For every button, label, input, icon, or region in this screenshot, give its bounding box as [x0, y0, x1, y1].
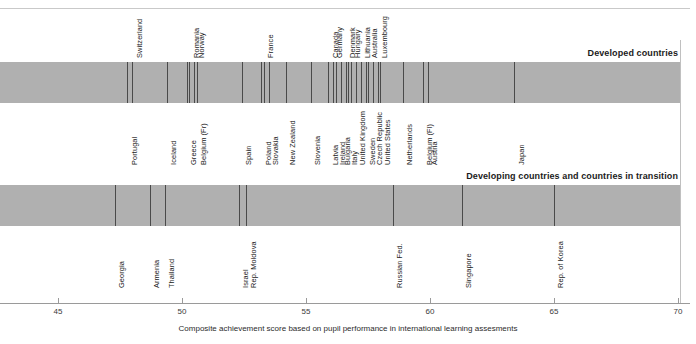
x-tick-mark — [58, 298, 59, 303]
country-tick-line — [269, 62, 270, 103]
country-tick-line — [264, 62, 265, 103]
country-tick-line — [423, 62, 424, 103]
country-label: United States — [384, 119, 391, 165]
country-label: Spain — [245, 146, 252, 165]
country-tick-line — [239, 185, 240, 226]
x-tick-mark — [306, 298, 307, 303]
country-tick-line — [167, 62, 168, 103]
country-tick-line — [187, 62, 188, 103]
country-tick-line — [261, 62, 262, 103]
country-tick-line — [194, 62, 195, 103]
country-tick-line — [361, 62, 362, 103]
country-tick-line — [351, 62, 352, 103]
country-tick-line — [393, 185, 394, 226]
country-tick-line — [197, 62, 198, 103]
country-tick-line — [333, 62, 334, 103]
country-label: Netherlands — [406, 124, 413, 165]
country-label: Norway — [198, 32, 205, 58]
country-label: Slovakia — [272, 136, 279, 165]
country-tick-line — [373, 62, 374, 103]
chart-figure: Developed countries Developing countries… — [0, 0, 696, 344]
country-label: Slovenia — [314, 136, 321, 165]
top-rule — [0, 8, 690, 9]
x-tick-label: 50 — [178, 307, 187, 316]
country-label: Rep. of Korea — [557, 241, 564, 288]
country-label: New Zealand — [289, 120, 296, 165]
country-label: Germany — [336, 27, 343, 58]
x-tick-label: 60 — [426, 307, 435, 316]
country-tick-line — [189, 62, 190, 103]
x-tick-label: 65 — [550, 307, 559, 316]
country-tick-line — [356, 62, 357, 103]
country-tick-line — [150, 185, 151, 226]
country-tick-line — [132, 62, 133, 103]
country-tick-line — [127, 62, 128, 103]
country-label: Armenia — [153, 260, 160, 288]
x-tick-label: 45 — [54, 307, 63, 316]
country-tick-line — [115, 185, 116, 226]
country-label: Belgium (Fr) — [200, 123, 207, 165]
country-label: Japan — [518, 144, 525, 165]
x-tick-label: 70 — [674, 307, 683, 316]
x-tick-label: 55 — [302, 307, 311, 316]
x-tick-mark — [430, 298, 431, 303]
x-tick-mark — [182, 298, 183, 303]
country-label: Switzerland — [136, 19, 143, 58]
country-tick-line — [336, 62, 337, 103]
country-label: Hungary — [354, 29, 361, 58]
country-tick-line — [366, 62, 367, 103]
country-label: Greece — [190, 140, 197, 165]
country-label: Thailand — [168, 259, 175, 288]
country-label: United Kingdom — [359, 111, 366, 165]
x-tick-mark — [554, 298, 555, 303]
country-tick-line — [380, 62, 381, 103]
country-tick-line — [341, 62, 342, 103]
country-label: Portugal — [131, 137, 138, 165]
x-axis-caption: Composite achievement score based on pup… — [0, 324, 696, 333]
country-label: Rep. Moldova — [250, 241, 257, 288]
country-label: Georgia — [118, 261, 125, 288]
country-tick-line — [165, 185, 166, 226]
country-tick-line — [428, 62, 429, 103]
country-tick-line — [514, 62, 515, 103]
country-label: Iceland — [170, 140, 177, 165]
country-tick-line — [403, 62, 404, 103]
country-tick-line — [346, 62, 347, 103]
country-tick-line — [328, 62, 329, 103]
country-tick-line — [378, 62, 379, 103]
country-tick-line — [242, 62, 243, 103]
country-tick-line — [246, 185, 247, 226]
country-label: Luxembourg — [381, 16, 388, 58]
country-label: Singapore — [465, 253, 472, 288]
x-axis-line — [0, 303, 690, 304]
country-tick-line — [368, 62, 369, 103]
country-label: Austria — [431, 141, 438, 165]
country-tick-line — [554, 185, 555, 226]
country-tick-line — [348, 62, 349, 103]
country-label: Australia — [371, 28, 378, 58]
band-label-developing: Developing countries and countries in tr… — [466, 171, 678, 181]
country-tick-line — [286, 62, 287, 103]
country-label: Russian Fed. — [396, 243, 403, 288]
country-tick-line — [311, 62, 312, 103]
x-tick-mark — [678, 298, 679, 303]
country-tick-line — [462, 185, 463, 226]
right-frame-line — [680, 40, 681, 303]
country-label: France — [267, 34, 274, 58]
band-developing — [0, 185, 680, 226]
band-label-developed: Developed countries — [588, 48, 678, 58]
